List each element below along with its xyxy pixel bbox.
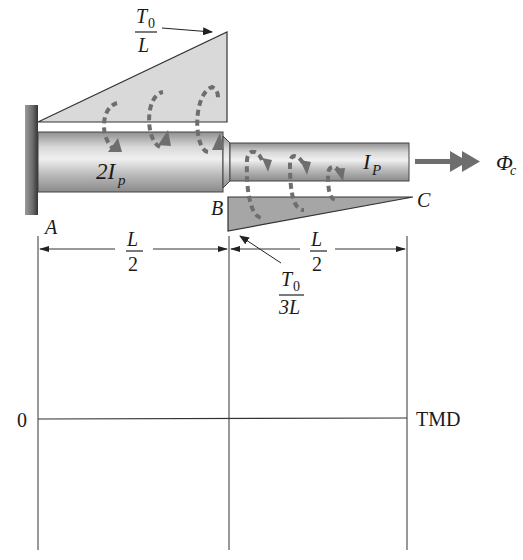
upper-load-intensity-label: T 0 L bbox=[135, 5, 157, 56]
svg-text:L: L bbox=[126, 228, 138, 250]
svg-text:3L: 3L bbox=[278, 296, 300, 318]
upper-torque-load bbox=[38, 32, 227, 122]
torsion-diagram: Φ c 2I p I P A B C T 0 L T 0 3L L 2 bbox=[0, 0, 523, 560]
fixed-wall bbox=[25, 105, 38, 215]
lower-load-intensity-label: T 0 3L bbox=[278, 268, 304, 318]
dimension-BC: L 2 bbox=[230, 228, 406, 275]
reference-lines bbox=[38, 236, 407, 550]
svg-text:2: 2 bbox=[312, 253, 322, 275]
svg-text:0: 0 bbox=[293, 279, 300, 294]
point-B-label: B bbox=[211, 197, 223, 219]
svg-text:L: L bbox=[310, 228, 322, 250]
svg-text:L: L bbox=[137, 34, 149, 56]
shaft-BC bbox=[230, 143, 409, 181]
shaft-AB-subscript: p bbox=[117, 172, 126, 188]
tmd-axis: 0 TMD bbox=[17, 408, 460, 431]
lower-torque-load bbox=[228, 197, 413, 231]
svg-text:2: 2 bbox=[128, 253, 138, 275]
upper-load-leader bbox=[162, 28, 212, 32]
point-A-label: A bbox=[43, 216, 58, 238]
rotation-subscript: c bbox=[510, 163, 517, 178]
tmd-axis-label: TMD bbox=[416, 408, 460, 430]
dimension-AB: L 2 bbox=[39, 228, 228, 275]
rotation-arrow-icon bbox=[415, 151, 480, 172]
point-C-label: C bbox=[417, 189, 431, 211]
shaft-BC-subscript: P bbox=[371, 162, 381, 178]
shaft-AB-label: 2I bbox=[96, 159, 117, 184]
svg-text:0: 0 bbox=[148, 16, 155, 31]
tmd-zero-label: 0 bbox=[17, 409, 27, 431]
